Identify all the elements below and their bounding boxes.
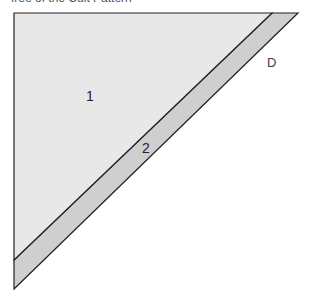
edge-label-d: D	[267, 55, 276, 70]
region-1-label: 1	[86, 88, 94, 104]
region-1-triangle	[14, 13, 272, 260]
triangle-diagram: 1 2 D	[0, 0, 310, 298]
region-2-label: 2	[142, 140, 150, 156]
